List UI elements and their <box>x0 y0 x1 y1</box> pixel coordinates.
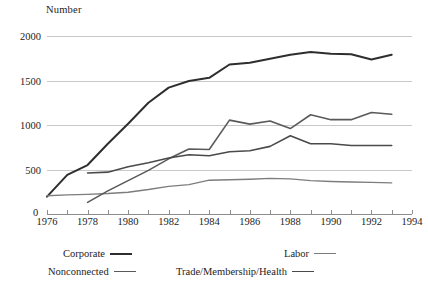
series-line <box>47 52 392 197</box>
legend-item-label: Corporate <box>63 248 105 259</box>
legend-item: Nonconnected <box>48 266 136 277</box>
legend-item: Trade/Membership/Health <box>176 266 314 277</box>
x-axis-tick <box>189 210 190 214</box>
x-axis-tick <box>128 210 129 214</box>
y-axis-tick-label: 500 <box>25 164 41 175</box>
legend-item: Labor <box>284 248 336 259</box>
legend-swatch <box>292 271 314 272</box>
legend-item-label: Nonconnected <box>48 266 109 277</box>
series-line <box>47 178 392 195</box>
x-axis-tick-label: 1994 <box>402 216 423 227</box>
legend-row-bottom: NonconnectedTrade/Membership/Health <box>0 266 428 284</box>
x-axis-tick <box>169 210 170 214</box>
x-axis-tick <box>351 210 352 214</box>
x-axis-tick <box>47 210 48 214</box>
series-lines <box>47 36 412 214</box>
y-axis-title: Number <box>46 4 82 15</box>
y-axis-tick-label: 1500 <box>20 75 41 86</box>
x-axis-tick <box>230 210 231 214</box>
legend-item-label: Trade/Membership/Health <box>176 266 287 277</box>
x-axis-tick-label: 1984 <box>199 216 220 227</box>
x-axis-line <box>47 214 412 215</box>
series-line <box>88 113 392 203</box>
legend-swatch <box>114 271 136 272</box>
y-axis-tick-label: 1000 <box>20 120 41 131</box>
x-axis-tick-label: 1978 <box>77 216 98 227</box>
x-axis-tick <box>371 210 372 214</box>
plot-area: 500100015002000 <box>47 36 412 214</box>
x-axis-tick-labels: 1976197819801982198419861988199019921994 <box>47 216 412 232</box>
x-axis-tick-label: 1982 <box>158 216 179 227</box>
x-axis-tick-label: 1986 <box>239 216 260 227</box>
x-axis-tick <box>148 210 149 214</box>
x-axis-tick-label: 1976 <box>37 216 58 227</box>
x-axis-tick <box>250 210 251 214</box>
x-axis-tick <box>209 210 210 214</box>
x-axis-tick <box>311 210 312 214</box>
chart-legend: CorporateLabor NonconnectedTrade/Members… <box>0 248 428 290</box>
legend-item: Corporate <box>63 248 132 259</box>
legend-row-top: CorporateLabor <box>0 248 428 266</box>
series-line <box>88 136 392 173</box>
legend-swatch <box>314 253 336 254</box>
x-axis-tick <box>88 210 89 214</box>
x-axis-tick <box>67 210 68 214</box>
x-axis-tick <box>270 210 271 214</box>
x-axis-tick <box>412 210 413 214</box>
x-axis-tick <box>108 210 109 214</box>
x-axis-tick-label: 1988 <box>280 216 301 227</box>
y-axis-tick-label: 2000 <box>20 31 41 42</box>
x-axis-tick <box>392 210 393 214</box>
x-axis-tick <box>290 210 291 214</box>
x-axis-tick-label: 1980 <box>118 216 139 227</box>
x-axis-tick-label: 1992 <box>361 216 382 227</box>
legend-swatch <box>110 253 132 255</box>
legend-item-label: Labor <box>284 248 309 259</box>
line-chart-figure: Number 500100015002000 0 197619781980198… <box>0 0 428 294</box>
x-axis-tick-label: 1990 <box>320 216 341 227</box>
x-axis-tick <box>331 210 332 214</box>
